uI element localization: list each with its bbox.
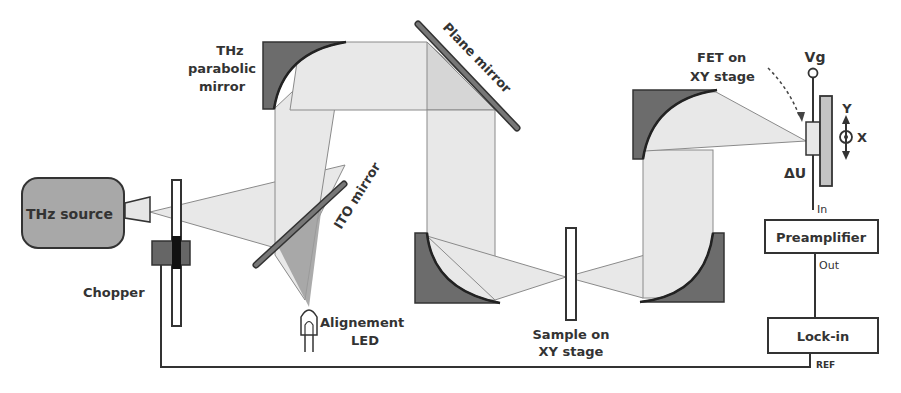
thz-source-horn-icon bbox=[125, 197, 150, 222]
thz-source-label: THz source bbox=[26, 206, 113, 222]
vg-label: Vg bbox=[805, 49, 826, 65]
parabolic-label-2: parabolic bbox=[188, 61, 256, 76]
fet-pointer-arrow bbox=[768, 68, 800, 118]
sample-holder bbox=[566, 228, 576, 320]
parabolic-label-3: mirror bbox=[199, 79, 246, 94]
optical-setup-diagram: THz source Chopper THz parabolic mirror … bbox=[0, 0, 901, 393]
ref-label: REF bbox=[816, 360, 835, 370]
vg-terminal bbox=[809, 69, 818, 78]
chopper-label: Chopper bbox=[83, 285, 145, 300]
fet-label-1: FET on bbox=[697, 50, 746, 65]
fet-device bbox=[806, 122, 820, 155]
fet-label-2: XY stage bbox=[690, 69, 755, 84]
lockin-label: Lock-in bbox=[797, 329, 850, 344]
led-label-1: Alignement bbox=[320, 315, 404, 330]
preamplifier-label: Preamplifier bbox=[776, 230, 867, 245]
parabolic-label-1: THz bbox=[216, 43, 243, 58]
led-icon bbox=[301, 310, 317, 352]
sample-label-1: Sample on bbox=[533, 327, 610, 342]
chopper-motor bbox=[152, 241, 190, 265]
preamp-in-label: In bbox=[817, 203, 827, 216]
xy-stage-plate bbox=[820, 96, 832, 186]
chopper-blade bbox=[172, 236, 181, 269]
x-axis-label: X bbox=[857, 130, 867, 145]
delta-u-label: ΔU bbox=[784, 165, 806, 181]
y-axis-label: Y bbox=[841, 101, 852, 116]
preamp-out-label: Out bbox=[819, 259, 840, 272]
sample-label-2: XY stage bbox=[539, 344, 604, 359]
xy-axis-icon bbox=[840, 115, 852, 160]
led-label-2: LED bbox=[351, 333, 379, 348]
